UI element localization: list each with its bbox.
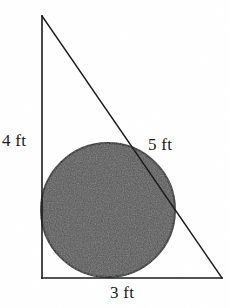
scan-noise-overlay <box>0 0 229 308</box>
dimension-label-hypotenuse: 5 ft <box>148 136 172 154</box>
diagram-canvas <box>0 0 229 308</box>
dimension-label-base-leg: 3 ft <box>110 284 134 302</box>
dimension-label-vertical-leg: 4 ft <box>2 132 26 150</box>
geometry-figure: 4 ft 5 ft 3 ft <box>0 0 229 308</box>
